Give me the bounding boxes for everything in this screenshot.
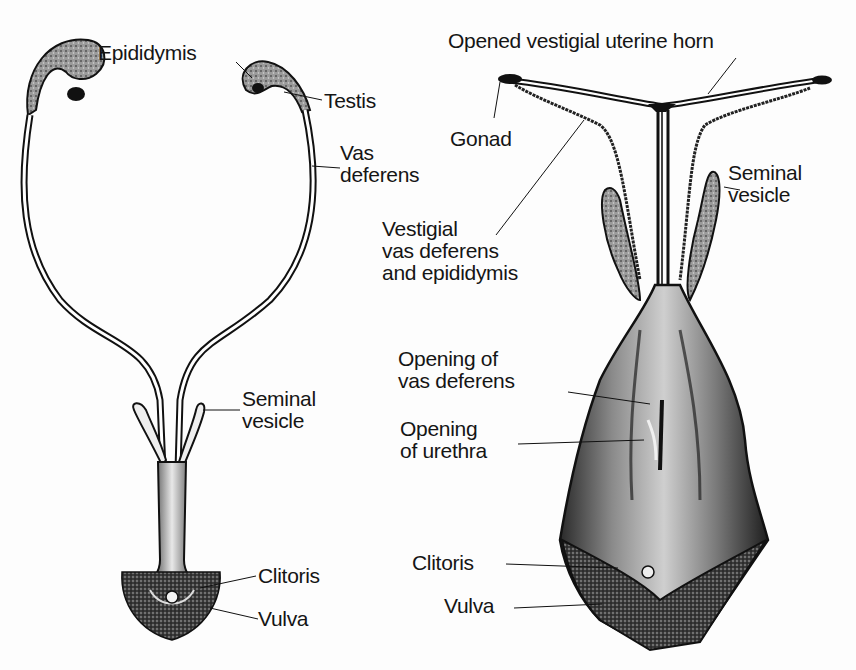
left-panel-artwork (24, 40, 340, 640)
label-vulva-right: Vulva (444, 595, 494, 617)
label-clitoris-left: Clitoris (258, 565, 320, 587)
right-gonad (812, 76, 832, 85)
left-gonad (498, 74, 522, 84)
left-testis-shape (27, 40, 104, 115)
right-sv-left (602, 188, 640, 300)
label-seminal-vesicle-left: Seminal vesicle (242, 388, 316, 432)
right-sv-right (688, 172, 720, 300)
label-testis: Testis (324, 90, 376, 112)
label-seminal-vesicle-right: Seminal vesicle (728, 162, 802, 206)
label-vas-deferens: Vas deferens (340, 142, 419, 186)
label-uterine-horn: Opened vestigial uterine horn (448, 30, 714, 52)
label-gonad: Gonad (450, 128, 512, 150)
label-opening-urethra: Opening of urethra (400, 418, 487, 462)
left-shaft (154, 462, 190, 578)
label-vulva-left: Vulva (258, 608, 308, 630)
right-panel-artwork (494, 58, 832, 650)
anatomy-diagram: Epididymis Testis Vas deferens Seminal v… (0, 0, 856, 670)
label-clitoris-right: Clitoris (412, 552, 474, 574)
left-vulva-shape (122, 572, 220, 640)
label-vestigial-vas-deferens: Vestigial vas deferens and epididymis (382, 218, 518, 284)
label-opening-vas-deferens: Opening of vas deferens (398, 348, 515, 392)
label-epididymis: Epididymis (98, 42, 197, 64)
